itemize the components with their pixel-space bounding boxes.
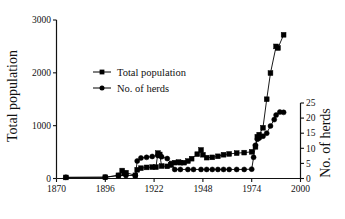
data-point-marker xyxy=(154,165,159,170)
left-axis-ticks: 0100020003000 xyxy=(32,15,57,184)
chart-legend: Total populationNo. of herds xyxy=(93,67,187,94)
x-tick-label: 1870 xyxy=(47,184,66,194)
data-point-marker xyxy=(227,152,232,157)
data-point-marker xyxy=(189,156,194,161)
figure: 0100020003000 0510152025 187018961922194… xyxy=(0,0,345,219)
data-point-marker xyxy=(251,155,256,160)
data-point-marker xyxy=(234,167,239,172)
data-point-marker xyxy=(168,161,173,166)
data-point-marker xyxy=(159,154,164,159)
data-point-marker xyxy=(242,167,247,172)
figure-caption xyxy=(0,212,345,219)
data-point-marker xyxy=(281,32,286,37)
data-point-marker xyxy=(133,173,138,178)
legend-item-1: Total population xyxy=(93,67,187,78)
data-point-marker xyxy=(268,123,273,128)
data-point-marker xyxy=(139,166,144,171)
right-tick-label: 0 xyxy=(306,174,311,184)
data-point-marker xyxy=(249,149,254,154)
data-point-marker xyxy=(144,155,149,160)
data-point-marker xyxy=(138,155,143,160)
population-herds-line-chart: 0100020003000 0510152025 187018961922194… xyxy=(0,0,345,219)
right-tick-label: 5 xyxy=(306,159,311,169)
right-tick-label: 25 xyxy=(306,98,316,108)
data-point-marker xyxy=(242,150,247,155)
data-point-marker xyxy=(123,173,128,178)
data-point-marker xyxy=(199,148,204,153)
x-tick-label: 1922 xyxy=(145,184,164,194)
data-point-marker xyxy=(221,152,226,157)
left-tick-label: 3000 xyxy=(32,15,51,25)
data-point-marker xyxy=(210,155,215,160)
data-point-marker xyxy=(264,131,269,136)
data-point-marker xyxy=(249,167,254,172)
legend-label: Total population xyxy=(117,67,187,78)
series-2 xyxy=(63,110,286,180)
data-point-marker xyxy=(268,71,273,76)
data-point-marker xyxy=(227,167,232,172)
data-point-marker xyxy=(210,167,215,172)
data-point-marker xyxy=(199,167,204,172)
left-tick-label: 2000 xyxy=(32,68,51,78)
data-point-marker xyxy=(272,117,277,122)
data-point-marker xyxy=(172,167,177,172)
y-axis-title-left: Total population xyxy=(5,36,21,156)
right-tick-label: 20 xyxy=(306,113,316,123)
data-point-marker xyxy=(144,165,149,170)
right-axis-ticks: 0510152025 xyxy=(301,98,316,184)
x-axis-ticks: 187018961922194819742000 xyxy=(47,179,310,194)
data-series-layer xyxy=(63,32,286,179)
y-axis-title-right: No. of herds xyxy=(318,93,334,193)
data-point-marker xyxy=(116,173,121,178)
legend-label: No. of herds xyxy=(117,83,169,94)
series-line xyxy=(66,35,284,178)
data-point-marker xyxy=(191,167,196,172)
data-point-marker xyxy=(261,125,266,130)
data-point-marker xyxy=(159,164,164,169)
x-tick-label: 1974 xyxy=(242,184,261,194)
data-point-marker xyxy=(103,175,108,180)
data-point-marker xyxy=(216,154,221,159)
x-tick-label: 2000 xyxy=(291,184,310,194)
data-point-marker xyxy=(253,143,258,148)
data-point-marker xyxy=(264,97,269,102)
data-point-marker xyxy=(150,154,155,159)
x-tick-label: 1948 xyxy=(193,184,212,194)
x-tick-label: 1896 xyxy=(96,184,115,194)
legend-circle-marker-icon xyxy=(100,86,105,91)
data-point-marker xyxy=(281,110,286,115)
left-tick-label: 0 xyxy=(46,174,51,184)
left-tick-label: 1000 xyxy=(32,121,51,131)
data-point-marker xyxy=(178,167,183,172)
data-point-marker xyxy=(185,167,190,172)
data-point-marker xyxy=(204,155,209,160)
data-point-marker xyxy=(221,167,226,172)
data-point-marker xyxy=(63,175,68,180)
legend-item-2: No. of herds xyxy=(93,83,169,94)
data-point-marker xyxy=(204,167,209,172)
data-point-marker xyxy=(276,46,281,51)
right-tick-label: 10 xyxy=(306,144,316,154)
data-point-marker xyxy=(215,167,220,172)
data-point-marker xyxy=(165,156,170,161)
right-tick-label: 15 xyxy=(306,128,316,138)
legend-square-marker-icon xyxy=(100,70,105,75)
data-point-marker xyxy=(234,151,239,156)
